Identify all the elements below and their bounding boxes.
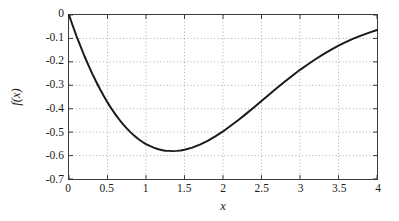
figure: f(x) x 00.511.522.533.540-0.1-0.2-0.3-0.… bbox=[0, 0, 399, 221]
y-tick-label: -0.4 bbox=[46, 103, 64, 115]
y-tick-label: -0.2 bbox=[46, 56, 64, 68]
x-tick-label: 0.5 bbox=[100, 183, 114, 195]
x-tick-label: 3 bbox=[298, 183, 304, 195]
y-tick-label: -0.5 bbox=[46, 127, 64, 139]
y-tick-label: -0.1 bbox=[46, 32, 64, 44]
x-tick-label: 0 bbox=[65, 183, 71, 195]
x-tick-label: 2 bbox=[220, 183, 226, 195]
y-tick-label: -0.6 bbox=[46, 151, 64, 163]
x-tick-label: 1.5 bbox=[177, 183, 191, 195]
y-tick-label: -0.3 bbox=[46, 79, 64, 91]
x-tick-label: 3.5 bbox=[332, 183, 346, 195]
x-tick-label: 2.5 bbox=[255, 183, 269, 195]
y-tick-label: -0.7 bbox=[46, 174, 64, 186]
plot-area bbox=[68, 14, 378, 180]
x-tick-label: 4 bbox=[375, 183, 381, 195]
x-tick-label: 1 bbox=[143, 183, 149, 195]
y-tick-label: 0 bbox=[58, 8, 64, 20]
series-line-0 bbox=[69, 15, 377, 151]
data-curve-layer bbox=[69, 15, 377, 179]
